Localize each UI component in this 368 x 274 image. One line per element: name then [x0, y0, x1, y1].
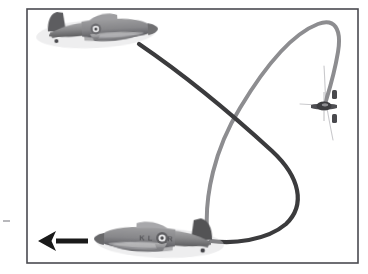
- edge-mark: [3, 220, 10, 222]
- aviation-maneuver-figure: K L R: [0, 0, 368, 274]
- apex-aircraft-lower-tip: [332, 114, 337, 123]
- apex-aircraft-upper-tip: [332, 90, 337, 99]
- apex-aircraft-canopy: [322, 103, 328, 106]
- direction-arrow-shaft: [56, 239, 88, 244]
- lower-aircraft-code-right: R: [167, 234, 173, 243]
- lower-aircraft-code-left2: L: [148, 234, 153, 243]
- lower-aircraft-code-left: K: [139, 233, 145, 242]
- diagram-canvas: K L R: [0, 0, 368, 274]
